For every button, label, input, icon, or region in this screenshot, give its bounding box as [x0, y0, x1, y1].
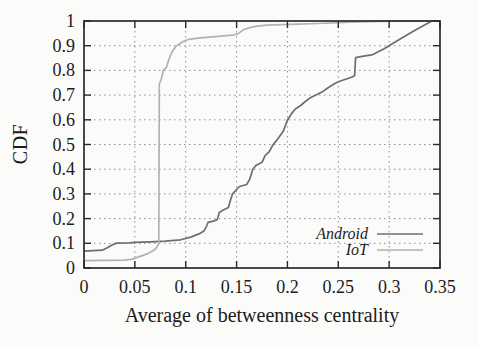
y-tick-label: 0.9: [53, 36, 76, 56]
series-curve-android: [84, 21, 440, 251]
y-tick-label: 0.8: [53, 60, 76, 80]
y-tick-label: 0: [66, 258, 75, 278]
y-tick-label: 0.3: [53, 184, 76, 204]
y-axis-title: CDF: [9, 124, 32, 164]
x-axis-title: Average of betweenness centrality: [84, 304, 440, 327]
y-tick-label: 0.2: [53, 209, 76, 229]
plot-border: [84, 21, 440, 268]
x-tick-label: 0.15: [221, 277, 253, 297]
y-tick-label: 0.6: [53, 110, 76, 130]
y-tick-label: 0.1: [53, 233, 76, 253]
cdf-chart: 00.050.10.150.20.250.30.3500.10.20.30.40…: [0, 0, 479, 348]
x-tick-label: 0.25: [323, 277, 355, 297]
legend-label-iot: IoT: [345, 241, 369, 258]
y-tick-label: 0.5: [53, 135, 76, 155]
y-tick-label: 1: [66, 11, 75, 31]
x-tick-label: 0.2: [276, 277, 299, 297]
y-tick-label: 0.7: [53, 85, 76, 105]
x-tick-label: 0: [80, 277, 89, 297]
x-tick-label: 0.1: [174, 277, 197, 297]
y-tick-label: 0.4: [53, 159, 76, 179]
legend-label-android: Android: [315, 225, 369, 242]
x-tick-label: 0.3: [378, 277, 401, 297]
x-tick-label: 0.35: [424, 277, 456, 297]
series-curve-iot: [84, 21, 440, 261]
x-tick-label: 0.05: [119, 277, 151, 297]
cdf-figure: 00.050.10.150.20.250.30.3500.10.20.30.40…: [0, 0, 479, 348]
